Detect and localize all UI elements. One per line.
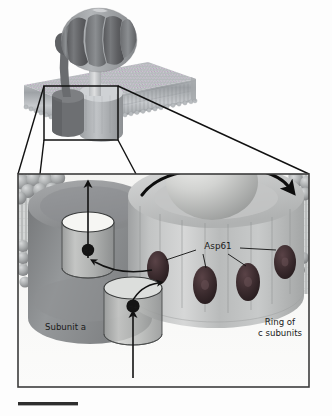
- scale-bar: [18, 402, 78, 405]
- ring-of-c-subunits-label-line2: c subunits: [258, 328, 302, 338]
- asp61-label: Asp61: [204, 241, 231, 251]
- ring-of-c-subunits-label-line1: Ring of: [265, 317, 296, 327]
- lower-channel-opening: [104, 277, 162, 299]
- atp-synthase-figure: H+ H+ Subunit a Asp61 Ring of c subunits: [0, 0, 332, 416]
- figure-canvas: H+ H+ Subunit a Asp61 Ring of c subunits: [0, 0, 332, 416]
- detail-panel: H+ H+ Subunit a Asp61 Ring of c subunits: [14, 144, 314, 387]
- f1-head: [61, 8, 137, 72]
- subunit-a-shade: [52, 96, 62, 136]
- proton-ion-upper-label: H+: [84, 248, 93, 254]
- bilayer-right-cap: [191, 77, 196, 101]
- subunit-a-label: Subunit a: [45, 322, 86, 332]
- scale-bar-rule: [18, 402, 78, 405]
- proton-ion-lower-label: H+: [128, 304, 137, 310]
